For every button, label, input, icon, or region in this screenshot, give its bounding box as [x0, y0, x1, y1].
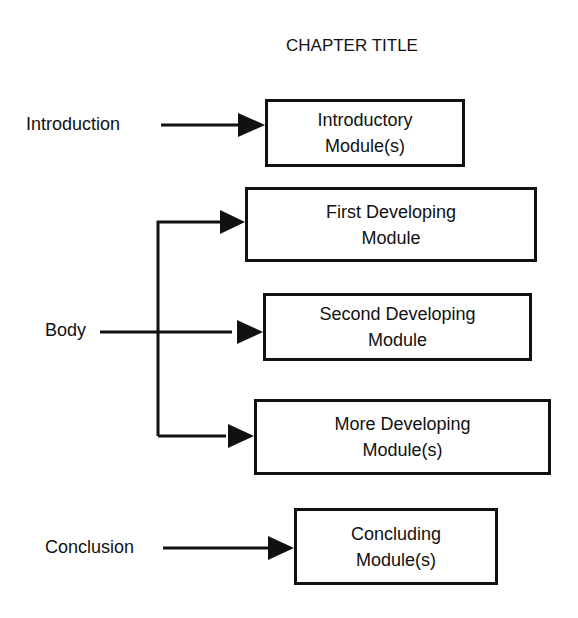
second-developing-module-box: Second Developing Module — [263, 293, 532, 361]
second-arrowhead-icon — [237, 320, 263, 344]
module-line-2: Module(s) — [325, 133, 405, 159]
more-arrowhead-icon — [228, 424, 254, 448]
module-line-2: Module(s) — [356, 547, 436, 573]
concluding-module-box: Concluding Module(s) — [294, 508, 498, 585]
module-line-1: Concluding — [351, 521, 441, 547]
module-line-2: Module(s) — [362, 437, 442, 463]
module-line-1: First Developing — [326, 199, 456, 225]
introductory-module-box: Introductory Module(s) — [265, 99, 465, 167]
module-line-1: Introductory — [317, 107, 412, 133]
module-line-2: Module — [368, 327, 427, 353]
module-line-1: More Developing — [334, 411, 470, 437]
introduction-label: Introduction — [26, 114, 120, 135]
first-developing-module-box: First Developing Module — [245, 187, 537, 262]
body-branch-line — [158, 222, 220, 436]
module-line-1: Second Developing — [319, 301, 475, 327]
body-label: Body — [45, 320, 86, 341]
more-developing-module-box: More Developing Module(s) — [254, 399, 551, 475]
conclusion-label: Conclusion — [45, 537, 134, 558]
intro-arrowhead-icon — [238, 113, 265, 137]
first-arrowhead-icon — [220, 210, 245, 234]
module-line-2: Module — [361, 225, 420, 251]
concluding-arrowhead-icon — [268, 536, 294, 560]
